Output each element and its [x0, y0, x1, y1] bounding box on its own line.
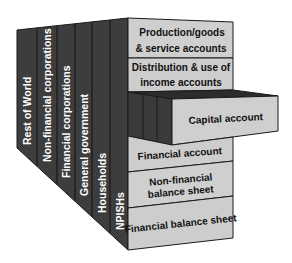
sector-accounts-diagram: Rest of World Non-financial corporations…: [0, 0, 292, 263]
account-label-production-line2: & service accounts: [135, 43, 227, 54]
sector-label-financial-corporations: Financial corporations: [60, 65, 72, 178]
account-label-distribution-line2: income accounts: [140, 77, 222, 88]
sector-label-general-government: General government: [78, 93, 90, 196]
account-label-distribution-line1: Distribution & use of: [132, 62, 231, 73]
account-label-production-line1: Production/goods: [139, 27, 225, 38]
sector-label-households: Households: [96, 153, 108, 213]
sector-face-shape: [17, 18, 128, 250]
accounts-face: Production/goods & service accounts Dist…: [124, 18, 278, 250]
sector-face: Rest of World Non-financial corporations…: [17, 18, 128, 250]
sector-label-rest-of-world: Rest of World: [21, 77, 33, 145]
sector-label-non-financial-corporations: Non-financial corporations: [41, 28, 53, 162]
